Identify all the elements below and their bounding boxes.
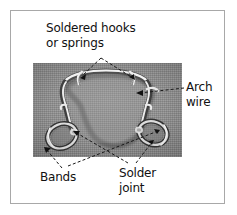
label-bands-line1: Bands [40,170,76,185]
label-soldered-hooks: Soldered hooks or springs [46,21,135,51]
figure-root: Soldered hooks or springs Arch wire Band… [0,0,237,215]
photo-vignette [33,63,182,157]
label-arch-wire-line1: Arch [186,80,212,95]
label-soldered-hooks-line1: Soldered hooks [46,21,135,36]
label-soldered-hooks-line2: or springs [46,36,135,51]
label-solder-joint-line1: Solder [119,166,156,181]
label-solder-joint: Solder joint [119,166,156,196]
label-arch-wire: Arch wire [186,80,212,110]
appliance-photograph [33,63,182,157]
label-bands: Bands [40,170,76,185]
label-arch-wire-line2: wire [186,95,212,110]
label-solder-joint-line2: joint [119,181,156,196]
